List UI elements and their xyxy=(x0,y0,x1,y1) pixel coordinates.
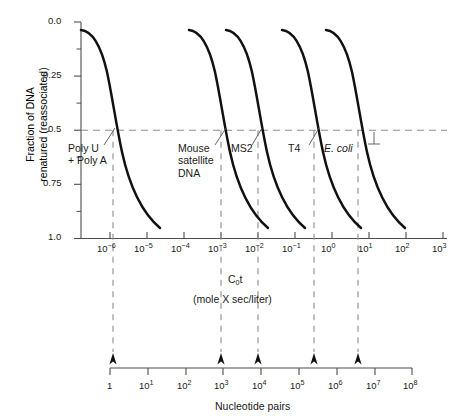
nucleotide-tick-exponent: 2 xyxy=(188,378,192,387)
nucleotide-tick-exponent: 8 xyxy=(414,378,418,387)
nucleotide-axis-title: Nucleotide pairs xyxy=(215,400,290,412)
curve-ms2 xyxy=(226,30,305,228)
series-label-line3: DNA xyxy=(178,167,214,179)
chart-canvas xyxy=(0,0,469,420)
nucleotide-tick-exponent: 7 xyxy=(377,378,381,387)
series-label-line2: satellite xyxy=(178,154,214,166)
nucleotide-tick-exponent: 5 xyxy=(301,378,305,387)
x-tick-label-0: 10−6 xyxy=(97,243,116,254)
x-tick-exponent: −3 xyxy=(219,241,227,250)
series-label-e-coli: E. coli xyxy=(324,142,353,154)
nucleotide-tick-label-3: 103 xyxy=(214,380,229,391)
x-tick-exponent: 3 xyxy=(443,241,447,250)
x-tick-label-8: 102 xyxy=(395,243,410,254)
cot-curve-figure: Fraction of DNA renatured (reassociated)… xyxy=(0,0,469,420)
series-label-line1: Mouse xyxy=(178,142,214,154)
nucleotide-tick-label-0: 1 xyxy=(107,380,112,391)
nucleotide-tick-label-1: 101 xyxy=(139,380,154,391)
series-label-mouse-satellite-dna: Mouse satellite DNA xyxy=(178,142,214,179)
x-tick-label-5: 10−1 xyxy=(282,243,301,254)
y-axis-title: Fraction of DNA renatured (reassociated) xyxy=(24,17,50,232)
x-tick-label-4: 10−2 xyxy=(245,243,264,254)
nucleotide-tick-exponent: 1 xyxy=(150,378,154,387)
nucleotide-tick-label-7: 107 xyxy=(366,380,381,391)
y-axis-title-line1: Fraction of DNA xyxy=(24,17,37,232)
x-tick-label-2: 10−4 xyxy=(171,243,190,254)
nucleotide-tick-label-2: 102 xyxy=(177,380,192,391)
curve-mouse-satellite-dna xyxy=(189,30,268,228)
nucleotide-tick-label-4: 104 xyxy=(252,380,267,391)
arrow-marker xyxy=(109,353,116,365)
x-tick-exponent: −4 xyxy=(182,241,190,250)
series-label-poly-u-poly-a: Poly U + Poly A xyxy=(68,142,107,167)
x-tick-label-7: 101 xyxy=(358,243,373,254)
x-tick-exponent: 1 xyxy=(369,241,373,250)
x-tick-exponent: 2 xyxy=(406,241,410,250)
renaturation-curves xyxy=(81,30,405,228)
series-label-ms2: MS2 xyxy=(231,142,253,154)
y-tick-label-1: 0.25 xyxy=(43,69,62,80)
x-axis-units: (mole X sec/liter) xyxy=(193,293,272,305)
x-axis-title-tail: t xyxy=(240,273,243,285)
curve-poly-u-poly-a xyxy=(81,30,160,228)
series-label-t4: T4 xyxy=(288,142,300,154)
nucleotide-tick-exponent: 4 xyxy=(263,378,267,387)
x-tick-exponent: −6 xyxy=(108,241,116,250)
x-tick-label-9: 103 xyxy=(432,243,447,254)
x-tick-exponent: −5 xyxy=(145,241,153,250)
x-axis-title-main: C xyxy=(228,273,236,285)
x-tick-exponent: 0 xyxy=(332,241,336,250)
nucleotide-axis-ticks xyxy=(110,368,412,375)
y-tick-label-2: 0.5 xyxy=(48,123,61,134)
x-axis-title: C0t xyxy=(228,273,243,285)
nucleotide-tick-label-6: 106 xyxy=(328,380,343,391)
series-label-line1: Poly U xyxy=(68,142,107,154)
y-tick-label-3: 0.75 xyxy=(43,177,62,188)
nucleotide-tick-exponent: 3 xyxy=(225,378,229,387)
arrow-marker xyxy=(310,353,317,365)
x-tick-label-1: 10−5 xyxy=(134,243,153,254)
series-label-line2: + Poly A xyxy=(68,154,107,166)
x-tick-label-3: 10−3 xyxy=(208,243,227,254)
x-axis-ticks xyxy=(110,232,443,239)
nucleotide-tick-label-8: 108 xyxy=(403,380,418,391)
nucleotide-tick-label-5: 105 xyxy=(290,380,305,391)
x-tick-exponent: −2 xyxy=(256,241,264,250)
x-tick-label-6: 100 xyxy=(321,243,336,254)
nucleotide-tick-exponent: 6 xyxy=(339,378,343,387)
y-tick-label-0: 0.0 xyxy=(48,15,61,26)
x-axis-title-subscript: 0 xyxy=(236,278,240,287)
arrow-marker xyxy=(217,353,224,365)
x-tick-exponent: −1 xyxy=(293,241,301,250)
y-tick-label-4: 1.0 xyxy=(48,231,61,242)
arrow-marker xyxy=(354,353,361,365)
y-axis-major-ticks xyxy=(74,22,81,239)
arrow-marker xyxy=(254,353,261,365)
nucleotide-arrow-markers xyxy=(109,353,361,365)
